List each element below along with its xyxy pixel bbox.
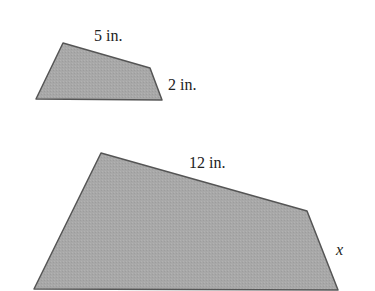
large-right-side-label: x [336, 242, 343, 258]
small-top-side-label: 5 in. [94, 28, 122, 44]
small-right-side-label: 2 in. [168, 77, 196, 93]
large-top-side-label: 12 in. [189, 155, 225, 171]
small-quadrilateral [36, 43, 162, 100]
similar-quadrilaterals-figure [0, 0, 375, 291]
large-quadrilateral [34, 153, 338, 290]
